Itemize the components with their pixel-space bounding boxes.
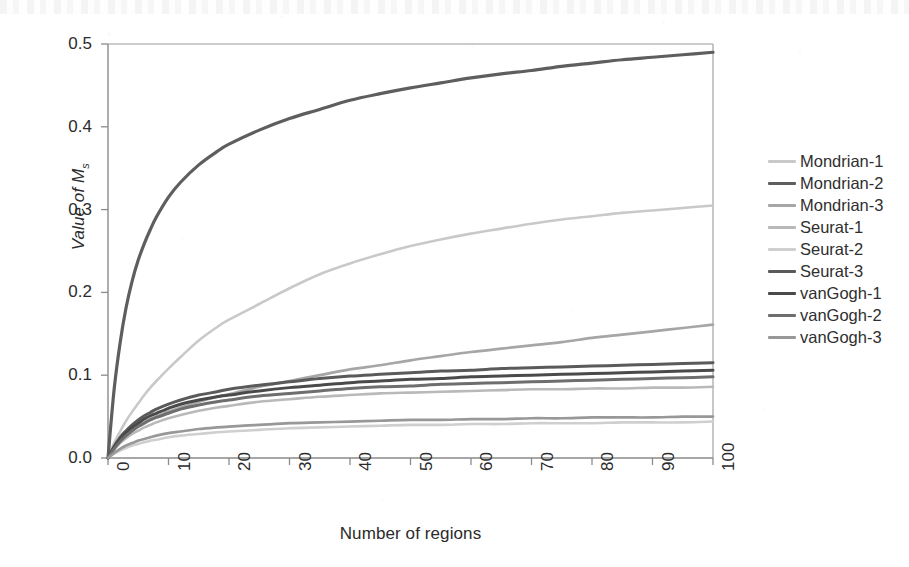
legend-swatch-line-icon [768, 226, 796, 229]
legend-item[interactable]: vanGogh-2 [768, 304, 908, 326]
legend-swatch-line-icon [768, 182, 796, 185]
legend-swatch-line-icon [768, 314, 796, 317]
x-axis-ticks [108, 458, 713, 465]
x-tick-label: 70 [539, 452, 556, 471]
legend-swatch-line-icon [768, 160, 796, 163]
legend-item[interactable]: vanGogh-1 [768, 282, 908, 304]
y-tick-label: 0.3 [46, 201, 92, 218]
chart-figure: Value of Ms Number of regions 0.00.10.20… [0, 0, 909, 567]
y-tick-label: 0.5 [46, 35, 92, 52]
legend-swatch-line-icon [768, 204, 796, 207]
legend-item-label: Mondrian-1 [800, 153, 883, 170]
legend-item-label: Mondrian-3 [800, 197, 883, 214]
x-tick-label: 80 [599, 452, 616, 471]
legend-item-label: vanGogh-1 [800, 285, 882, 302]
series-line [108, 422, 713, 458]
x-axis-title: Number of regions [108, 524, 713, 544]
legend-item-label: vanGogh-2 [800, 307, 882, 324]
legend-item-label: Seurat-1 [800, 219, 863, 236]
legend-item-label: Seurat-2 [800, 241, 863, 258]
legend-item[interactable]: Seurat-1 [768, 216, 908, 238]
legend-swatch-line-icon [768, 336, 796, 339]
x-tick-label: 0 [115, 462, 132, 471]
y-tick-label: 0.2 [46, 283, 92, 300]
series-line [108, 52, 713, 458]
series-line [108, 370, 713, 458]
y-tick-label: 0.1 [46, 366, 92, 383]
y-axis-ticks [101, 44, 108, 458]
x-tick-label: 10 [176, 452, 193, 471]
x-tick-label: 40 [357, 452, 374, 471]
x-tick-label: 50 [418, 452, 435, 471]
legend-item[interactable]: Mondrian-3 [768, 194, 908, 216]
x-tick-label: 30 [297, 452, 314, 471]
data-series-group [108, 52, 713, 458]
chart-legend: Mondrian-1Mondrian-2Mondrian-3Seurat-1Se… [768, 150, 908, 348]
legend-item[interactable]: Mondrian-1 [768, 150, 908, 172]
legend-swatch-line-icon [768, 292, 796, 295]
legend-swatch-line-icon [768, 248, 796, 251]
legend-item[interactable]: Mondrian-2 [768, 172, 908, 194]
y-tick-label: 0.0 [46, 449, 92, 466]
legend-item[interactable]: Seurat-2 [768, 238, 908, 260]
legend-item-label: Mondrian-2 [800, 175, 883, 192]
legend-item-label: Seurat-3 [800, 263, 863, 280]
x-tick-label: 100 [720, 443, 737, 471]
legend-item[interactable]: Seurat-3 [768, 260, 908, 282]
legend-swatch-line-icon [768, 270, 796, 273]
x-tick-label: 20 [236, 452, 253, 471]
y-tick-label: 0.4 [46, 118, 92, 135]
legend-item[interactable]: vanGogh-3 [768, 326, 908, 348]
x-tick-label: 90 [660, 452, 677, 471]
x-tick-label: 60 [478, 452, 495, 471]
legend-item-label: vanGogh-3 [800, 329, 882, 346]
